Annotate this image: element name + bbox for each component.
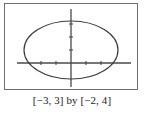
window-range-caption: [−3, 3] by [−2, 4] xyxy=(0,93,144,107)
plot-canvas xyxy=(5,4,137,89)
graph-figure: [−3, 3] by [−2, 4] xyxy=(0,0,144,115)
plot-frame xyxy=(4,3,138,90)
